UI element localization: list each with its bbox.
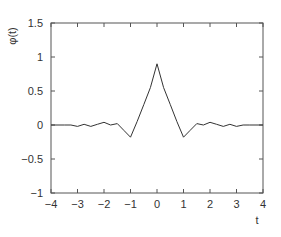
x-tick-label: 4 (260, 198, 266, 210)
axis-ticks (51, 23, 263, 193)
x-tick-label: −3 (71, 198, 84, 210)
x-tick-label: −4 (45, 198, 58, 210)
y-tick-label: 0 (37, 119, 43, 131)
y-tick-label: 1.5 (28, 17, 43, 29)
x-tick-labels: −4−3−2−101234 (45, 198, 266, 210)
y-tick-label: −0.5 (21, 153, 43, 165)
x-tick-label: −2 (98, 198, 111, 210)
plot-frame (51, 23, 263, 193)
x-tick-label: 0 (154, 198, 160, 210)
y-tick-labels: −1−0.500.511.5 (21, 17, 43, 199)
x-tick-label: 3 (233, 198, 239, 210)
y-tick-label: 0.5 (28, 85, 43, 97)
x-tick-label: 2 (207, 198, 213, 210)
x-tick-label: 1 (180, 198, 186, 210)
x-tick-label: −1 (124, 198, 137, 210)
y-tick-label: 1 (37, 51, 43, 63)
x-axis-label: t (255, 214, 258, 226)
series-lines (51, 64, 263, 137)
line-chart: −4−3−2−101234 −1−0.500.511.5 t φ(t) (0, 0, 281, 237)
y-axis-label: φ(t) (6, 27, 18, 45)
y-tick-label: −1 (30, 187, 43, 199)
series-line (51, 64, 263, 137)
